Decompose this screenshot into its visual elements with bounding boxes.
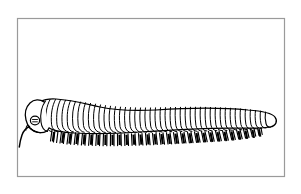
page-background (0, 0, 301, 194)
millipede-illustration (0, 0, 301, 194)
figure-canvas: Millipede (0, 0, 301, 194)
eye-patch (30, 116, 39, 125)
